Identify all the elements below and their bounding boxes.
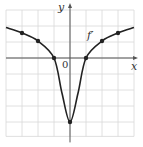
- origin-label: 0: [62, 60, 68, 70]
- y-axis-label: y: [58, 2, 64, 13]
- curve-label: f′: [87, 30, 94, 41]
- x-axis-label: x: [131, 61, 137, 72]
- derivative-graph: [0, 0, 143, 147]
